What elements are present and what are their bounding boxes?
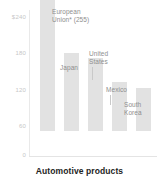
y-axis-line: [29, 10, 30, 157]
plot-area: $240 180 120 60 0 EuropeanUnion* (255) J…: [0, 0, 159, 160]
label-south-korea-line2: Korea: [124, 109, 142, 116]
y-tick-120: 120: [2, 87, 26, 94]
x-axis-baseline: [29, 156, 157, 157]
label-south-korea: SouthKorea: [124, 101, 142, 116]
label-japan: Japan: [60, 64, 78, 72]
label-united-states-line1: United: [89, 50, 108, 57]
label-european-union-line2: Union* (255): [52, 16, 89, 23]
chart-title: Automotive products: [0, 166, 159, 176]
label-european-union-line1: European: [52, 8, 81, 15]
label-south-korea-line1: South: [124, 101, 141, 108]
bar-united-states: [88, 58, 103, 131]
y-tick-240: $240: [2, 14, 26, 21]
label-european-union: EuropeanUnion* (255): [52, 8, 89, 23]
label-mexico: Mexico: [106, 86, 127, 94]
automotive-products-bar-chart: $240 180 120 60 0 EuropeanUnion* (255) J…: [0, 0, 159, 185]
y-tick-60: 60: [2, 123, 26, 130]
label-united-states-line2: States: [89, 58, 108, 65]
y-tick-180: 180: [2, 50, 26, 57]
leader-line-mexico: [110, 95, 111, 105]
leader-line-united-states: [92, 67, 93, 80]
label-united-states: UnitedStates: [89, 50, 108, 65]
y-tick-0: 0: [2, 152, 26, 159]
